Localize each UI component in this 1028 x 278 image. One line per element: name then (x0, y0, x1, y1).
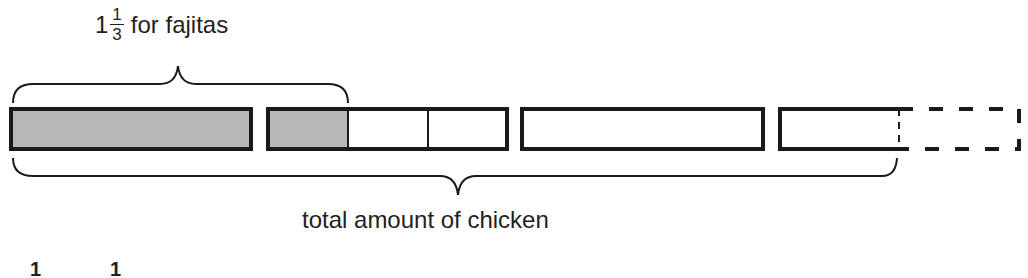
bar-4-dashed-extension (899, 109, 1019, 149)
bar-4 (780, 109, 1019, 149)
fajitas-label: 1 1 3 for fajitas (95, 6, 228, 43)
bar-3 (522, 109, 763, 149)
fraction-denominator: 3 (112, 25, 121, 43)
bar-1 (11, 109, 251, 149)
mixed-number-whole: 1 (95, 11, 108, 39)
total-chicken-label: total amount of chicken (302, 206, 549, 234)
fraction-numerator: 1 (110, 6, 123, 25)
cut-off-bottom-text: 1 1 (0, 252, 200, 278)
cut-off-numerator-2: 1 (110, 258, 121, 278)
fraction: 1 3 (110, 6, 123, 43)
fajitas-text: for fajitas (131, 11, 228, 39)
top-brace (13, 66, 348, 103)
bottom-brace (13, 158, 897, 195)
bar-2 (268, 109, 507, 149)
cut-off-numerator-1: 1 (30, 258, 41, 278)
